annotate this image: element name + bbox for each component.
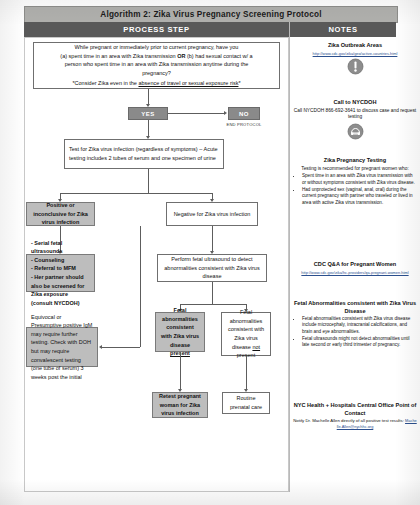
note-fetal-abnormalities-heading: Fetal Abnormalities consistent with Zika…: [293, 300, 417, 315]
list-item: Spent time in an area with Zika virus tr…: [302, 173, 417, 186]
note-central-office-contact: NYC Health + Hospitals Central Office Po…: [293, 402, 417, 430]
column-header-notes: NOTES: [290, 22, 396, 37]
note-zika-pregnancy-testing-body: Testing is recommended for pregnant wome…: [293, 166, 417, 173]
note-call-to-nycdoh-body: Call NYCDOH 866-692-3641 to discuss case…: [293, 108, 417, 121]
column-divider: [289, 22, 290, 492]
note-call-to-nycdoh-heading: Call to NYCDOH: [293, 99, 417, 107]
telephone-icon-wrap: [293, 123, 417, 140]
telephone-icon: [347, 123, 364, 140]
zika-outbreak-areas-link[interactable]: http://www.cdc.gov/zika/geo/active-count…: [293, 51, 417, 56]
process-step-frame: [24, 37, 289, 492]
page-title-text: Algorithm 2: Zika Virus Pregnancy Screen…: [100, 10, 321, 19]
list-item: Had unprotected sex (vaginal, anal, oral…: [302, 187, 417, 206]
page-title: Algorithm 2: Zika Virus Pregnancy Screen…: [24, 6, 398, 23]
note-central-office-instruction: Notify Dr. Machelle Allen directly of al…: [293, 418, 404, 423]
note-zika-outbreak-areas: Zika Outbreak Areas http://www.cdc.gov/z…: [293, 42, 417, 75]
list-item: Fetal abnormalities consistent with Zika…: [302, 316, 417, 335]
note-cdc-qa-pregnant-women: CDC Q&A for Pregnant Women http://www.cd…: [293, 261, 417, 275]
note-central-office-body: Notify Dr. Machelle Allen directly of al…: [293, 418, 417, 430]
note-zika-outbreak-areas-heading: Zika Outbreak Areas: [293, 42, 417, 50]
note-zika-pregnancy-testing-list: Spent time in an area with Zika virus tr…: [293, 173, 417, 206]
column-header-process-step-label: PROCESS STEP: [123, 25, 189, 34]
note-cdc-qa-heading: CDC Q&A for Pregnant Women: [293, 261, 417, 269]
column-header-notes-label: NOTES: [328, 25, 357, 34]
warning-icon: [347, 58, 364, 75]
column-header-process-step: PROCESS STEP: [24, 22, 289, 37]
algorithm-page: Algorithm 2: Zika Virus Pregnancy Screen…: [0, 0, 420, 505]
note-central-office-heading: NYC Health + Hospitals Central Office Po…: [293, 402, 417, 417]
note-call-to-nycdoh: Call to NYCDOH Call NYCDOH 866-692-3641 …: [293, 99, 417, 140]
note-fetal-abnormalities-list: Fetal abnormalities consistent with Zika…: [293, 316, 417, 349]
note-zika-pregnancy-testing: Zika Pregnancy Testing Testing is recomm…: [293, 157, 417, 207]
cdc-qa-link[interactable]: http://www.cdc.gov/zika/hc-providers/qa-…: [293, 270, 417, 275]
note-zika-pregnancy-testing-heading: Zika Pregnancy Testing: [293, 157, 417, 165]
note-fetal-abnormalities: Fetal Abnormalities consistent with Zika…: [293, 300, 417, 350]
warning-icon-wrap: [293, 58, 417, 75]
list-item: Fetal ultrasounds might not detect abnor…: [302, 336, 417, 349]
